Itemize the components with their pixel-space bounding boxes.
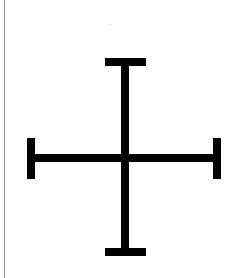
scan-artifact-speck (110, 24, 111, 25)
horizontal-stem (31, 154, 217, 162)
left-terminal-bar (27, 138, 35, 179)
right-terminal-bar (213, 138, 221, 179)
top-terminal-bar (105, 58, 146, 66)
page-left-border (4, 0, 5, 278)
bottom-terminal-bar (105, 248, 146, 256)
